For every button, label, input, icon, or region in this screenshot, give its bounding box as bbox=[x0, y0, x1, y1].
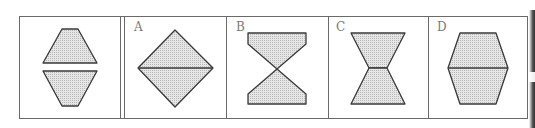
page-edge-shadow bbox=[529, 10, 535, 128]
option-d-figure[interactable] bbox=[448, 33, 508, 104]
figures-canvas bbox=[0, 0, 535, 128]
option-a-figure[interactable] bbox=[138, 30, 213, 107]
question-figure bbox=[43, 29, 97, 106]
option-b-figure[interactable] bbox=[248, 33, 306, 104]
option-c-figure[interactable] bbox=[351, 33, 405, 104]
